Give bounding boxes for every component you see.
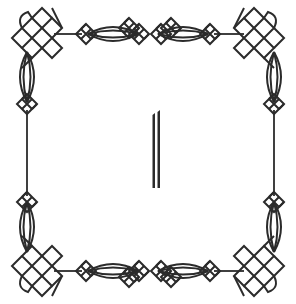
center-double-bar	[153, 110, 161, 188]
lens-right-bottom	[267, 202, 281, 252]
ornamental-frame	[0, 0, 296, 304]
corner-ornament-top-left	[12, 8, 62, 68]
frame-lines	[27, 34, 274, 271]
corner-ornament-bottom-left	[12, 236, 62, 296]
